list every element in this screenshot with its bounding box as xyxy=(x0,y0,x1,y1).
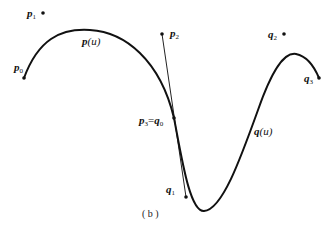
label-curve-p: p(u) xyxy=(81,35,101,48)
bezier-continuity-diagram: p1 p0 p2 p(u) p3=q0 q(u) q1 q2 q3 ( b ) xyxy=(0,0,332,228)
label-p0: p0 xyxy=(13,61,24,75)
point-q3 xyxy=(317,76,321,80)
label-curve-q: q(u) xyxy=(254,125,273,138)
label-q2: q2 xyxy=(268,28,278,42)
curve-q xyxy=(174,54,319,211)
label-q1: q1 xyxy=(166,183,176,197)
label-p1: p1 xyxy=(26,7,37,21)
point-p2 xyxy=(160,32,164,36)
figure-caption: ( b ) xyxy=(142,208,159,220)
point-p0 xyxy=(22,76,26,80)
point-q2 xyxy=(282,32,286,36)
label-p3-q0: p3=q0 xyxy=(138,114,164,128)
point-q1 xyxy=(184,195,188,199)
label-p2: p2 xyxy=(169,27,180,41)
label-q3: q3 xyxy=(304,72,314,86)
point-p3-q0 xyxy=(172,116,176,120)
point-p1 xyxy=(41,11,45,15)
